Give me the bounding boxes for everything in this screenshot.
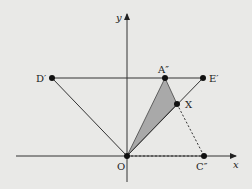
point-e xyxy=(200,75,206,81)
label-e: E′ xyxy=(209,73,219,84)
label-a: A″ xyxy=(157,64,169,75)
point-x xyxy=(174,101,180,107)
segment-o-d xyxy=(52,78,127,156)
label-c: C″ xyxy=(196,161,208,172)
point-a xyxy=(162,75,168,81)
coordinate-diagram: y x O D′ A″ E′ X C″ xyxy=(0,0,252,189)
dashed-segment-x-c xyxy=(177,104,204,156)
x-axis-label: x xyxy=(233,159,239,170)
label-x: X xyxy=(185,99,193,110)
point-o xyxy=(124,153,130,159)
shaded-triangle xyxy=(127,78,177,156)
y-axis-label: y xyxy=(115,12,122,23)
label-d: D′ xyxy=(36,73,47,84)
label-o: O xyxy=(117,161,125,172)
point-d xyxy=(49,75,55,81)
point-c xyxy=(201,153,207,159)
